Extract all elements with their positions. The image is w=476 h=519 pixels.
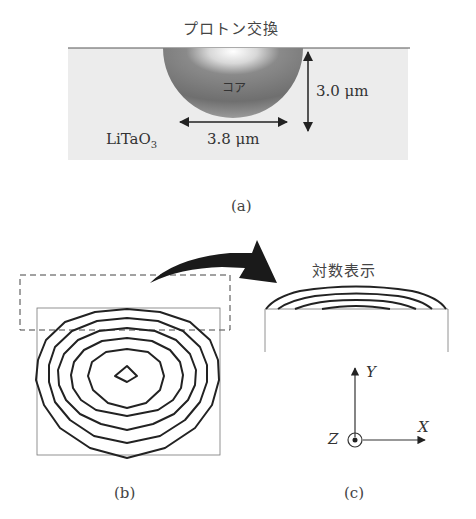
dashed-selection [20,275,230,330]
depth-label: 3.0 μm [316,84,369,99]
log-contour-arcs [266,287,446,310]
curved-arrow [150,240,277,283]
panel-c-frame [265,309,448,352]
width-label: 3.8 μm [207,132,260,147]
proton-exchange-label: プロトン交換 [183,22,279,37]
caption-c: (c) [344,486,364,501]
x-axis-label: X [418,420,429,435]
log-display-label: 対数表示 [312,264,376,279]
figure-canvas [0,0,476,519]
caption-b: (b) [114,486,135,501]
contour-lines [36,309,219,458]
z-axis-label: Z [328,432,338,447]
substrate-label: LiTaO3 [106,132,157,150]
y-axis-label: Y [366,365,376,380]
core-label: コア [222,82,246,94]
caption-a: (a) [231,199,252,214]
substrate-name: LiTaO [106,130,151,148]
substrate-subscript: 3 [151,139,157,150]
